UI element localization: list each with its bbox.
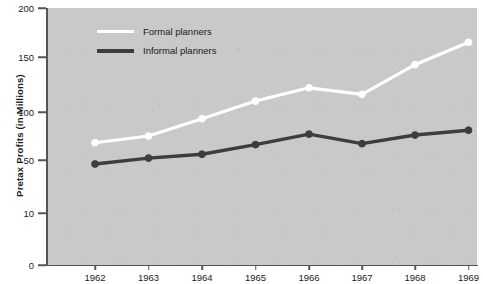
chart-figure: Pretax Profits (in Millions) 20015010050… <box>0 0 483 284</box>
legend-swatch-formal-planners <box>97 30 134 33</box>
chart-legend: Formal planners Informal planners <box>97 22 307 60</box>
data-point <box>252 98 259 105</box>
legend-item-informal-planners: Informal planners <box>97 41 307 60</box>
data-point <box>306 131 313 138</box>
data-point <box>412 61 419 68</box>
legend-swatch-informal-planners <box>97 49 134 53</box>
data-point <box>412 132 419 139</box>
data-point <box>359 91 366 98</box>
legend-label-formal-planners: Formal planners <box>143 26 212 37</box>
data-point <box>92 161 99 168</box>
data-point <box>465 127 472 134</box>
legend-item-formal-planners: Formal planners <box>97 22 307 41</box>
data-point <box>199 115 206 122</box>
data-point <box>145 133 152 140</box>
data-point <box>145 155 152 162</box>
data-point <box>465 39 472 46</box>
data-point <box>306 84 313 91</box>
legend-label-informal-planners: Informal planners <box>143 45 216 56</box>
data-point <box>199 151 206 158</box>
data-point <box>92 139 99 146</box>
data-point <box>252 141 259 148</box>
data-point <box>359 140 366 147</box>
